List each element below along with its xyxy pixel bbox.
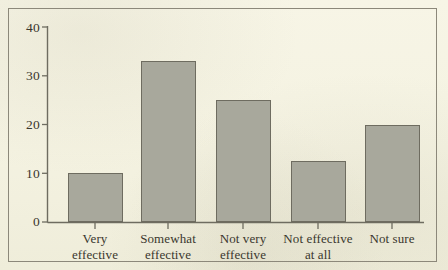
bar-not-very-effective	[216, 100, 271, 222]
xtick-label-line1: Not sure	[350, 231, 434, 247]
bar-not-effective-at-all	[291, 161, 346, 222]
bar-very-effective	[68, 173, 123, 222]
bar-not-sure	[365, 125, 420, 223]
chart-screenshot: 40 30 20 10 0	[0, 0, 448, 270]
bar-somewhat-effective	[141, 61, 196, 222]
xtick-label-not-sure: Not sure	[350, 231, 434, 247]
plot-area: 40 30 20 10 0	[0, 0, 448, 270]
xtick-label-line2: at all	[269, 247, 367, 263]
